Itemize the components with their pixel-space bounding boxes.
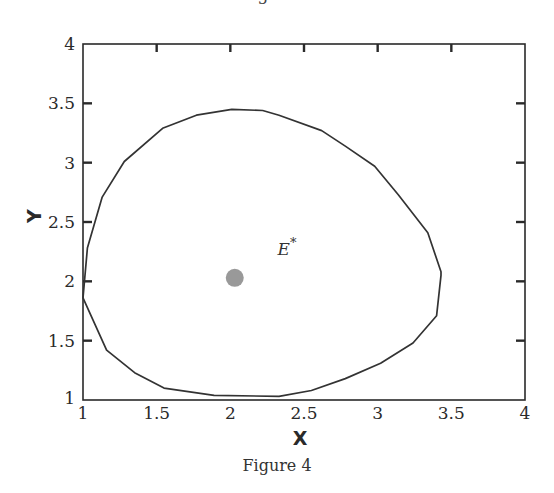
y-tick-label: 4 [64,34,75,54]
equilibrium-label: E* [276,235,296,259]
y-tick-label: 1.5 [48,331,75,351]
y-tick-label: 2.5 [48,212,75,232]
tick-labels: 11.522.533.5411.522.533.54 [48,34,530,423]
equilibrium-points [226,269,244,287]
y-tick-label: 3 [64,153,75,173]
y-tick-label: 1 [64,388,75,408]
x-tick-label: 3.5 [438,403,465,423]
x-tick-label: 2 [225,403,236,423]
x-tick-label: 4 [520,403,531,423]
figure-caption: Figure 4 [0,456,554,475]
x-tick-label: 3 [372,403,383,423]
x-tick-label: 1.5 [143,403,170,423]
axis-ticks [83,44,525,341]
x-axis-title: X [293,427,308,449]
y-tick-label: 3.5 [48,93,75,113]
plot-frame [83,44,525,400]
x-tick-label: 2.5 [290,403,317,423]
x-tick-label: 1 [78,403,89,423]
equilibrium-point [226,269,244,287]
y-axis-title: Y [23,209,45,224]
limit-cycle-curve [83,109,441,396]
chart: 11.522.533.5411.522.533.54 E* X Y [0,0,554,493]
y-tick-label: 2 [64,271,75,291]
